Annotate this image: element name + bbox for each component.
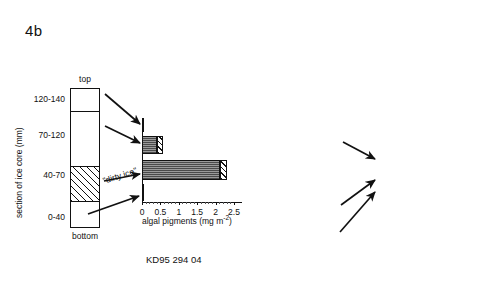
- x-tick-minor: [164, 202, 165, 204]
- x-axis-title-left: algal pigments (mg m-2): [142, 214, 232, 226]
- x-tick-minor: [190, 202, 191, 204]
- x-tick-minor: [182, 202, 183, 204]
- x-tick-major: [142, 202, 143, 205]
- x-tick-minor: [153, 202, 154, 204]
- x-tick-minor: [223, 202, 224, 204]
- x-tick-major: [234, 202, 235, 205]
- x-tick-minor: [186, 202, 187, 204]
- x-tick-minor: [157, 202, 158, 204]
- core-segment-0-40: [71, 201, 99, 229]
- x-tick-minor: [227, 202, 228, 204]
- core-segment-70-120: [71, 111, 99, 166]
- x-tick-major: [179, 202, 180, 205]
- bar-chart-left: 00.511.522.5: [142, 118, 246, 208]
- panel-caption-left: KD95 294 04: [146, 254, 201, 265]
- figure-4b: 4b top bottom 120-140 70-120 40-70 0-40 …: [0, 0, 496, 284]
- bar-0-40: [142, 184, 144, 201]
- bar-40-70: [142, 160, 227, 180]
- core-segment-120-140: [71, 89, 99, 111]
- x-tick-major: [197, 202, 198, 205]
- x-tick-minor: [146, 202, 147, 204]
- x-tick-minor: [168, 202, 169, 204]
- bar-70-120: [142, 136, 163, 154]
- bar-segment-hatched: [220, 160, 226, 180]
- bar-segment-dark: [142, 184, 144, 201]
- panel-kd95-294-06: top bottom 50-250 20-50 0-20 00.20.40.6 …: [260, 0, 496, 284]
- bar-segment-dark: [142, 118, 144, 132]
- x-tick-minor: [212, 202, 213, 204]
- bar-segment-dark: [142, 136, 157, 154]
- y-axis-title-left: section of ice core (mm): [14, 127, 24, 218]
- bar-segment-dark: [142, 160, 220, 180]
- x-tick-minor: [230, 202, 231, 204]
- x-axis-title-end-left: ): [229, 216, 232, 226]
- x-tick-major: [216, 202, 217, 205]
- core-bottom-label-left: bottom: [50, 231, 120, 241]
- x-tick-minor: [149, 202, 150, 204]
- core-segment-label-120-140: 120-140: [5, 94, 65, 104]
- x-tick-minor: [201, 202, 202, 204]
- x-tick-minor: [208, 202, 209, 204]
- x-axis-title-main-left: algal pigments (mg m: [142, 216, 223, 226]
- core-segment-40-70-dirty-ice: [71, 166, 99, 201]
- x-tick-minor: [175, 202, 176, 204]
- dirty-ice-annotation: "dirty ice": [101, 165, 138, 185]
- bar-120-140: [142, 118, 144, 132]
- x-tick-major: [160, 202, 161, 205]
- ice-core-column-left: [70, 88, 100, 228]
- core-top-label-left: top: [50, 74, 120, 84]
- x-tick-minor: [171, 202, 172, 204]
- bar-segment-hatched: [157, 136, 163, 154]
- x-tick-minor: [219, 202, 220, 204]
- x-tick-minor: [205, 202, 206, 204]
- panel-kd95-294-04: top bottom 120-140 70-120 40-70 0-40 sec…: [0, 0, 260, 284]
- x-tick-minor: [194, 202, 195, 204]
